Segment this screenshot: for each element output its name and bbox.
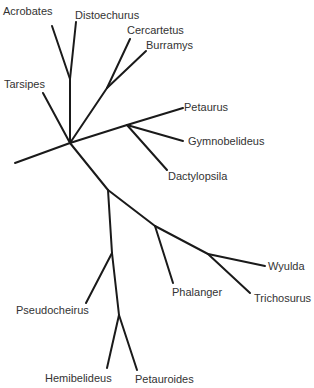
branch-pseudocheirus [86,253,112,303]
taxon-label-gymnobelideus: Gymnobelideus [188,135,265,147]
taxon-label-acrobates: Acrobates [3,5,53,17]
branch-phalangeroid [70,143,108,190]
branches [15,22,265,370]
labels: Acrobates Distoechurus Cercartetus Burra… [3,5,312,385]
taxon-label-petauroides: Petauroides [135,373,194,385]
branch-petauroides [119,315,137,370]
taxon-label-burramys: Burramys [146,39,194,51]
branch-petauridae [70,125,127,143]
branch-hemibelideus-petauroides [112,253,119,315]
taxon-label-cercartetus: Cercartetus [127,24,184,36]
phylogenetic-tree: Acrobates Distoechurus Cercartetus Burra… [0,0,314,388]
branch-distoechurus [70,22,76,79]
branch-acrobates [52,26,70,79]
branch-burramys [107,51,146,88]
taxon-label-trichosurus: Trichosurus [254,292,312,304]
taxon-label-distoechurus: Distoechurus [75,9,140,21]
branch-cercartetus [107,39,130,88]
branch-phalangeridae [108,190,155,226]
taxon-label-phalanger: Phalanger [172,286,222,298]
branch-burramyidae [70,88,107,143]
branch-stem [15,143,70,163]
taxon-label-petaurus: Petaurus [184,101,229,113]
branch-tarsipes [43,93,70,143]
taxon-label-hemibelideus: Hemibelideus [45,372,112,384]
branch-hemibelideus [107,315,119,368]
taxon-label-pseudocheirus: Pseudocheirus [16,304,89,316]
taxon-label-dactylopsila: Dactylopsila [168,170,228,182]
branch-wyulda [208,254,265,266]
branch-petaurus [127,108,183,125]
taxon-label-wyulda: Wyulda [268,260,305,272]
taxon-label-tarsipes: Tarsipes [4,78,45,90]
branch-pseudocheiridae [108,190,112,253]
